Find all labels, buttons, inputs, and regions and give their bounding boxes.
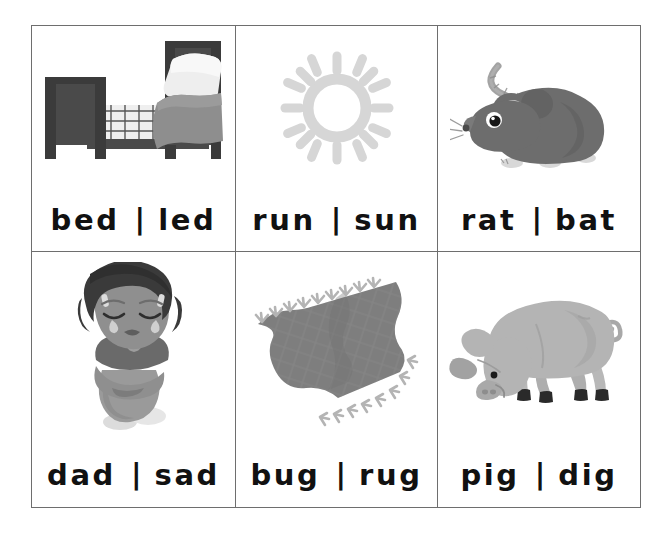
- word-separator: |: [520, 460, 559, 489]
- word-left: bed: [51, 206, 120, 235]
- bed-illustration: [32, 26, 235, 189]
- bed-icon: [41, 33, 227, 183]
- word-separator: |: [120, 205, 159, 234]
- word-separator: |: [316, 205, 355, 234]
- caption-run-sun: run | sun: [236, 189, 437, 251]
- card-bed-led[interactable]: bed | led: [32, 26, 236, 252]
- word-left: rat: [461, 206, 517, 235]
- word-right: rug: [359, 461, 423, 490]
- card-grid: bed | led: [32, 26, 640, 507]
- card-run-sun[interactable]: run | sun: [236, 26, 438, 252]
- word-right: sun: [354, 206, 420, 235]
- word-left: bug: [250, 461, 320, 490]
- rat-icon: [450, 32, 628, 184]
- caption-dad-sad: dad | sad: [32, 443, 235, 507]
- card-bug-rug[interactable]: bug | rug: [236, 252, 438, 507]
- sun-illustration: [236, 26, 437, 189]
- card-dad-sad[interactable]: dad | sad: [32, 252, 236, 507]
- rat-illustration: [438, 26, 640, 189]
- sun-icon: [273, 44, 401, 172]
- sad-child-illustration: [32, 252, 235, 443]
- card-pig-dig[interactable]: pig | dig: [438, 252, 640, 507]
- word-left: pig: [460, 461, 519, 490]
- word-right: dig: [558, 461, 617, 490]
- sad-child-icon: [68, 262, 200, 434]
- caption-rat-bat: rat | bat: [438, 189, 640, 251]
- word-separator: |: [320, 460, 359, 489]
- word-right: sad: [155, 461, 220, 490]
- caption-pig-dig: pig | dig: [438, 443, 640, 507]
- worksheet-frame: bed | led: [31, 25, 641, 508]
- word-separator: |: [116, 460, 155, 489]
- word-right: bat: [555, 206, 617, 235]
- caption-bug-rug: bug | rug: [236, 443, 437, 507]
- caption-bed-led: bed | led: [32, 189, 235, 251]
- word-right: led: [158, 206, 216, 235]
- rug-icon: [244, 268, 430, 428]
- word-separator: |: [516, 205, 555, 234]
- pig-icon: [444, 272, 634, 424]
- word-left: dad: [47, 461, 116, 490]
- rug-illustration: [236, 252, 437, 443]
- card-rat-bat[interactable]: rat | bat: [438, 26, 640, 252]
- pig-illustration: [438, 252, 640, 443]
- word-left: run: [252, 206, 315, 235]
